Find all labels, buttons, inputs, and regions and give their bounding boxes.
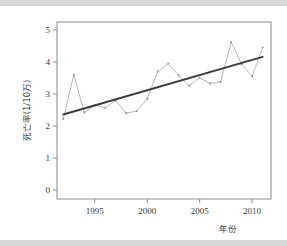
y-tick-label: 5 <box>46 25 51 35</box>
figure-canvas: 012345 1995200020052010 死亡率(1/10万) 年份 <box>0 0 287 246</box>
data-point-marker <box>220 81 222 83</box>
y-tick-label: 1 <box>46 153 51 163</box>
data-point-marker <box>199 77 201 79</box>
y-axis-title: 死亡率(1/10万) <box>22 80 32 142</box>
y-tick-label: 2 <box>46 121 51 131</box>
data-point-marker <box>157 71 159 73</box>
x-tick-label: 2000 <box>138 206 157 216</box>
data-point-marker <box>262 47 264 49</box>
data-point-marker <box>251 75 253 77</box>
data-point-marker <box>188 85 190 87</box>
data-point-marker <box>125 112 127 114</box>
y-tick-label: 0 <box>46 185 51 195</box>
y-tick-label: 4 <box>46 57 51 67</box>
x-axis-title: 年份 <box>219 224 237 234</box>
plot-area: 012345 1995200020052010 死亡率(1/10万) 年份 <box>0 0 287 246</box>
data-line <box>63 42 262 119</box>
data-point-marker <box>62 118 64 120</box>
plot-frame <box>57 22 271 199</box>
data-point-marker <box>73 74 75 76</box>
y-tick-label: 3 <box>46 89 51 99</box>
data-point-marker <box>167 63 169 65</box>
data-point-marker <box>146 98 148 100</box>
x-tick-label: 2005 <box>191 206 210 216</box>
x-axis-ticks: 1995200020052010 <box>86 199 262 216</box>
x-tick-label: 2010 <box>243 206 262 216</box>
x-tick-label: 1995 <box>86 206 105 216</box>
chart-svg: 012345 1995200020052010 死亡率(1/10万) 年份 <box>0 0 287 246</box>
data-point-marker <box>83 111 85 113</box>
trend-line <box>63 57 262 115</box>
data-series-layer <box>62 41 264 120</box>
data-point-marker <box>136 110 138 112</box>
data-point-marker <box>209 82 211 84</box>
data-point-marker <box>104 107 106 109</box>
data-point-marker <box>230 41 232 43</box>
data-point-marker <box>178 74 180 76</box>
y-axis-ticks: 012345 <box>46 25 58 195</box>
